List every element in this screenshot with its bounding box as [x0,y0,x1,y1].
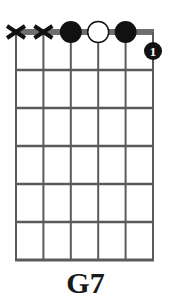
chord-diagram: 1 [0,0,171,303]
finger-dots: 1 [144,42,162,60]
chord-name-label: G7 [0,266,171,300]
filled-dot-icon [60,21,82,43]
finger-number: 1 [150,44,157,59]
open-string-circle-icon [88,22,109,43]
finger-dot: 1 [144,42,162,60]
filled-dot-icon [115,21,137,43]
fretboard-grid [15,29,154,260]
